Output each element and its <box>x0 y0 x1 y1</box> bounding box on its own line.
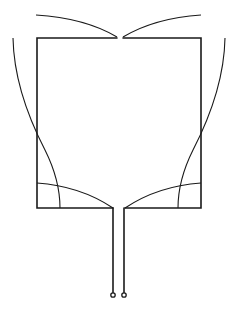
inner-arc-right-horizontal <box>125 183 201 208</box>
terminal-right <box>122 293 126 297</box>
diagram-canvas <box>0 0 235 313</box>
top-arc-left <box>36 15 117 37</box>
terminal-left <box>111 293 115 297</box>
square-loop-left <box>37 38 117 208</box>
top-arc-right <box>123 15 201 37</box>
inner-arc-left-horizontal <box>37 183 113 208</box>
square-loop-right <box>123 38 201 208</box>
